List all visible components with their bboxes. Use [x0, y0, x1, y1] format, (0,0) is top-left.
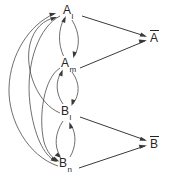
edge-a-l-to-b-n — [29, 16, 60, 162]
node-label-b-l: Bl — [61, 105, 71, 120]
graph-edges-svg — [0, 0, 169, 188]
edge-a-l-to-a-m — [72, 20, 78, 58]
edge-a-m-to-b-l — [71, 72, 78, 106]
edge-b-n-to-b-bar — [79, 145, 147, 168]
edge-b-l-to-b-bar — [80, 117, 147, 141]
edge-b-l-to-a-m — [57, 70, 63, 104]
node-label-a-bar-base: A — [150, 32, 158, 44]
node-label-b-n-sub: n — [68, 165, 72, 174]
edge-a-l-to-a-bar — [82, 16, 147, 37]
edge-a-m-to-a-bar — [80, 40, 147, 68]
node-label-a-m-base: A — [61, 56, 69, 70]
node-label-b-l-base: B — [61, 104, 69, 118]
node-label-b-n-base: B — [59, 156, 67, 170]
node-label-b-bar: B — [150, 138, 158, 150]
edge-b-n-to-a-l — [9, 13, 58, 166]
edge-b-l-to-b-n — [55, 121, 63, 158]
node-label-a-bar: A — [150, 32, 158, 44]
diagram-canvas: Al Am Bl Bn A B — [0, 0, 169, 188]
node-label-a-l-base: A — [63, 3, 71, 17]
edge-b-l-to-a-l — [29, 17, 60, 113]
node-label-b-n: Bn — [59, 157, 71, 172]
node-label-a-m: Am — [61, 57, 76, 72]
node-label-b-bar-base: B — [150, 138, 158, 150]
node-label-a-l: Al — [63, 4, 73, 19]
edge-b-n-to-b-l — [69, 122, 75, 157]
node-label-a-m-sub: m — [70, 65, 77, 74]
edge-a-m-to-a-l — [59, 16, 65, 56]
